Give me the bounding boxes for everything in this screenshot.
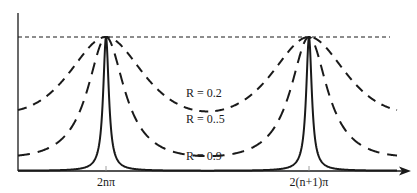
label-r-0-9: R = 0.9 [186,149,222,163]
airy-transmission-plot: R = 0.2 R = 0..5 R = 0.9 2nπ 2(n+1)π [0,0,417,193]
label-r-0-5: R = 0..5 [186,112,225,126]
label-r-0-2: R = 0.2 [186,86,222,100]
tick-label-2npi: 2nπ [97,175,115,189]
tick-label-2n1pi: 2(n+1)π [290,175,329,189]
curve-r-0-2 [18,37,397,111]
